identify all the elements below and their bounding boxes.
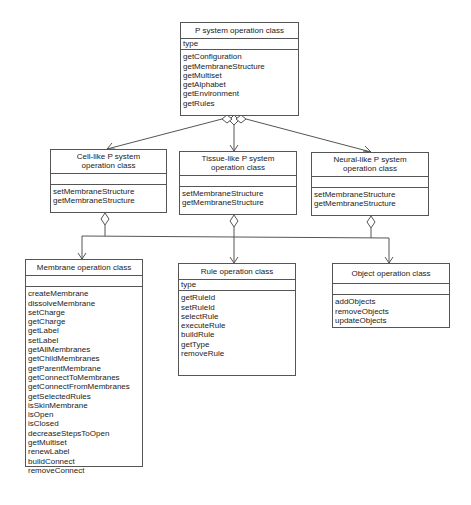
operation: getConfiguration — [183, 52, 296, 61]
operation: getConnectToMembranes — [28, 373, 140, 382]
class-title: P system operation class — [181, 23, 298, 39]
aggregation-diamond-icon — [367, 216, 375, 228]
operation: getConnectFromMembranes — [28, 382, 140, 391]
class-operations: addObjects removeObjects updateObjects — [333, 295, 449, 327]
operation: getMembraneStructure — [53, 196, 164, 205]
class-attributes — [51, 174, 166, 185]
operation: getChildMembranes — [28, 354, 140, 363]
operation: addObjects — [335, 297, 447, 306]
operation: getLabel — [28, 326, 140, 335]
operation: getAllMembranes — [28, 345, 140, 354]
operation: isSkinMembrane — [28, 401, 140, 410]
operation: getMultiset — [28, 438, 140, 447]
class-attributes — [333, 284, 449, 295]
class-operations: setMembraneStructure getMembraneStructur… — [180, 187, 296, 210]
operation: setMembraneStructure — [53, 187, 164, 196]
operation: createMembrane — [28, 289, 140, 298]
class-operations: getRuleId setRuleId selectRule executeRu… — [179, 291, 295, 360]
class-title: Object operation class — [333, 264, 449, 284]
class-membrane: Membrane operation class createMembrane … — [25, 259, 143, 467]
class-title: Cell-like P system operation class — [51, 150, 166, 174]
class-title: Rule operation class — [179, 264, 295, 280]
class-operations: setMembraneStructure getMembraneStructur… — [312, 188, 428, 211]
operation: getCharge — [28, 317, 140, 326]
operation: removeConnect — [28, 466, 140, 475]
operation: isOpen — [28, 410, 140, 419]
class-neural-like: Neural-like P system operation class set… — [311, 152, 429, 216]
operation: buildConnect — [28, 457, 140, 466]
operation: getMembraneStructure — [314, 199, 426, 208]
operation: setMembraneStructure — [314, 190, 426, 199]
operation: getRuleId — [181, 293, 293, 302]
attribute: type — [183, 39, 296, 48]
operation: executeRule — [181, 321, 293, 330]
operation: getAlphabet — [183, 80, 296, 89]
class-rule: Rule operation class type getRuleId setR… — [178, 263, 296, 376]
operation: removeObjects — [335, 307, 447, 316]
class-title: Membrane operation class — [26, 260, 142, 276]
operation: getSelectedRules — [28, 392, 140, 401]
class-attributes: type — [179, 280, 295, 291]
class-object: Object operation class addObjects remove… — [332, 263, 450, 328]
class-title: Neural-like P system operation class — [312, 153, 428, 177]
operation: getRules — [183, 99, 296, 108]
aggregation-diamond-icon — [101, 213, 109, 225]
class-operations: createMembrane dissolveMembrane setCharg… — [26, 287, 142, 477]
operation: getEnvironment — [183, 89, 296, 98]
operation: getMembraneStructure — [182, 198, 294, 207]
operation: decreaseStepsToOpen — [28, 429, 140, 438]
operation: setMembraneStructure — [182, 189, 294, 198]
class-attributes: type — [181, 39, 298, 50]
operation: getType — [181, 340, 293, 349]
operation: getMultiset — [183, 71, 296, 80]
class-psystem: P system operation class type getConfigu… — [180, 22, 299, 116]
attribute: type — [181, 280, 293, 289]
operation: setRuleId — [181, 303, 293, 312]
operation: buildRule — [181, 330, 293, 339]
operation: renewLabel — [28, 447, 140, 456]
class-attributes — [312, 177, 428, 188]
operation: removeRule — [181, 349, 293, 358]
class-operations: getConfiguration getMembraneStructure ge… — [181, 50, 298, 110]
operation: updateObjects — [335, 316, 447, 325]
class-cell-like: Cell-like P system operation class setMe… — [50, 149, 167, 213]
operation: setCharge — [28, 308, 140, 317]
operation: selectRule — [181, 312, 293, 321]
operation: setLabel — [28, 336, 140, 345]
class-tissue-like: Tissue-like P system operation class set… — [179, 151, 297, 215]
operation: isClosed — [28, 419, 140, 428]
class-operations: setMembraneStructure getMembraneStructur… — [51, 185, 166, 208]
class-attributes — [180, 176, 296, 187]
class-attributes — [26, 276, 142, 287]
class-title: Tissue-like P system operation class — [180, 152, 296, 176]
operation: getMembraneStructure — [183, 62, 296, 71]
aggregation-diamond-icon — [230, 215, 238, 227]
operation: dissolveMembrane — [28, 299, 140, 308]
operation: getParentMembrane — [28, 364, 140, 373]
